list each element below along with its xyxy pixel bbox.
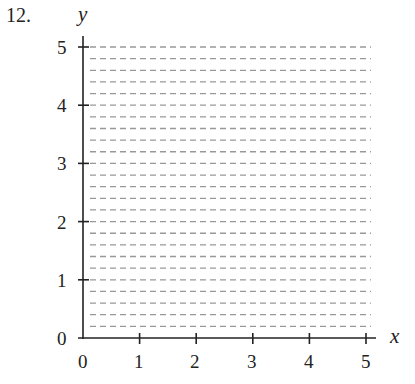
dashed-gridlines — [90, 47, 371, 326]
axis-ticks — [78, 47, 366, 344]
plot-area — [0, 0, 415, 384]
